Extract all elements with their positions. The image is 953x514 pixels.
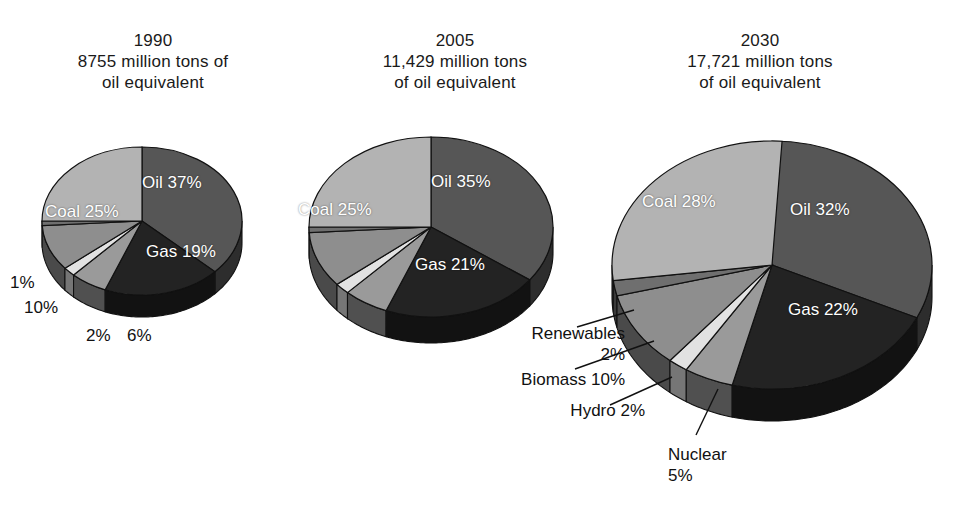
- pie-slice-coal: [42, 147, 142, 221]
- pie-slice-coal: [309, 137, 431, 227]
- pie-1990-geometry: [42, 147, 242, 317]
- chart-title-1990: 1990 8755 million tons of oil equivalent: [28, 30, 278, 93]
- pie-2030-geometry: [612, 141, 932, 421]
- pie-chart-2030: Oil 32% Gas 22% Coal 28%: [600, 105, 950, 450]
- callout-1990-biomass: 10%: [24, 297, 58, 318]
- chart-title-2005: 2005 11,429 million tons of oil equivale…: [330, 30, 580, 93]
- callout-2030-biomass: Biomass 10%: [455, 369, 625, 390]
- pie-slice-coal: [612, 141, 782, 281]
- pie-svg-2030: [600, 105, 950, 450]
- figure-canvas: 1990 8755 million tons of oil equivalent…: [0, 0, 953, 514]
- pie-2005-geometry: [309, 137, 553, 343]
- callout-2030-nuclear: Nuclear 5%: [668, 444, 727, 486]
- callout-1990-hydro: 2%: [86, 325, 111, 346]
- chart-title-2030: 2030 17,721 million tons of oil equivale…: [635, 30, 885, 93]
- callout-1990-nuclear: 6%: [127, 325, 152, 346]
- callout-2030-renewables: Renewables 2%: [475, 323, 625, 365]
- callout-1990-renewables: 1%: [10, 272, 35, 293]
- callout-2030-hydro: Hydro 2%: [500, 400, 645, 421]
